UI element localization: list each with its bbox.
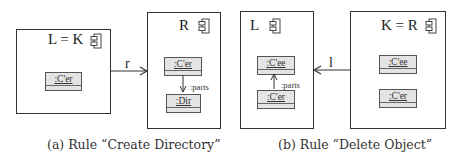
component-icon (90, 33, 102, 49)
lk-box-title: L = K (48, 31, 83, 48)
object-name: :C'ee (258, 57, 294, 70)
arrow-l-label: l (329, 55, 333, 71)
component-icon (269, 18, 281, 34)
object-name: :C'er (46, 73, 81, 86)
r-box: R :C'er :parts :Dir (147, 12, 221, 129)
edge-label-parts: :parts (281, 80, 300, 90)
object-name: :C'ee (380, 56, 416, 69)
caption-b: (b) Rule “Delete Object” (278, 137, 432, 152)
l-box-title: L (250, 17, 259, 34)
component-icon (198, 18, 210, 34)
object-name: :C'er (165, 58, 201, 71)
object-createe: :C'ee (257, 56, 295, 75)
edge-label-parts: :parts (190, 82, 209, 92)
caption-a: (a) Rule “Create Directory” (47, 137, 221, 152)
kr-box: K = R :C'ee :C'er (350, 11, 446, 129)
object-creator: :C'er (164, 57, 202, 76)
object-creator: :C'er (379, 89, 417, 108)
kr-box-title: K = R (381, 17, 418, 34)
object-creator: :C'er (45, 72, 82, 91)
object-creator: :C'er (257, 90, 295, 109)
object-createe: :C'ee (379, 55, 417, 74)
component-icon (425, 18, 437, 34)
l-box: L :C'ee :parts :C'er (240, 11, 314, 129)
object-name: :Dir (167, 95, 200, 108)
object-name: :C'er (258, 91, 294, 104)
r-box-title: R (179, 17, 189, 34)
object-directory: :Dir (166, 94, 201, 113)
arrow-r-label: r (125, 56, 130, 72)
object-name: :C'er (380, 90, 416, 103)
lk-box: L = K :C'er (16, 29, 111, 114)
